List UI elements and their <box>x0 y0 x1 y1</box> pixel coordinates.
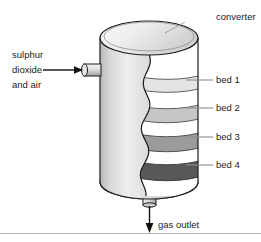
diagram-canvas: converter bed 1 bed 2 bed 3 bed 4 sulphu… <box>0 0 261 242</box>
label-inlet-line-2: dioxide <box>12 64 42 75</box>
label-inlet-line-3: and air <box>12 79 41 90</box>
label-bed-3: bed 3 <box>216 131 240 142</box>
label-bed-4: bed 4 <box>216 159 240 170</box>
label-gas-outlet: gas outlet <box>158 219 200 230</box>
label-bed-2: bed 2 <box>216 102 240 113</box>
label-inlet-line-1: sulphur <box>12 49 43 60</box>
converter-diagram-figure: converter bed 1 bed 2 bed 3 bed 4 sulphu… <box>0 0 261 242</box>
outlet-flow-arrow <box>146 206 154 233</box>
label-bed-1: bed 1 <box>216 74 240 85</box>
sulphur-dioxide-inlet-pipe <box>82 64 102 76</box>
vessel-top-rim <box>100 21 198 55</box>
label-converter: converter <box>216 11 256 22</box>
inlet-flow-arrow <box>56 66 83 74</box>
